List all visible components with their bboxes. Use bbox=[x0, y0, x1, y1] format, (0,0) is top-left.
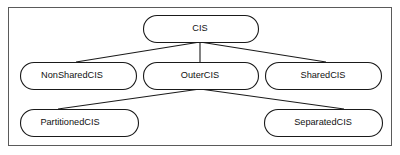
node-label-partitionedcis: PartitionedCIS bbox=[40, 117, 99, 127]
cis-hierarchy-diagram: CISNonSharedCISOuterCISSharedCISPartitio… bbox=[0, 0, 400, 155]
diagram-container: CISNonSharedCISOuterCISSharedCISPartitio… bbox=[0, 0, 400, 155]
node-label-sharedcis: SharedCIS bbox=[301, 70, 346, 80]
node-nonsharedcis[interactable]: NonSharedCIS bbox=[21, 63, 137, 90]
node-partitionedcis[interactable]: PartitionedCIS bbox=[21, 110, 139, 137]
node-sharedcis[interactable]: SharedCIS bbox=[266, 63, 382, 90]
node-label-separatedcis: SeparatedCIS bbox=[294, 117, 352, 127]
node-separatedcis[interactable]: SeparatedCIS bbox=[265, 110, 383, 137]
node-cis[interactable]: CIS bbox=[144, 16, 259, 43]
node-label-cis: CIS bbox=[192, 23, 207, 33]
node-label-outercis: OuterCIS bbox=[181, 70, 219, 80]
node-label-nonsharedcis: NonSharedCIS bbox=[41, 70, 103, 80]
node-outercis[interactable]: OuterCIS bbox=[144, 63, 259, 90]
